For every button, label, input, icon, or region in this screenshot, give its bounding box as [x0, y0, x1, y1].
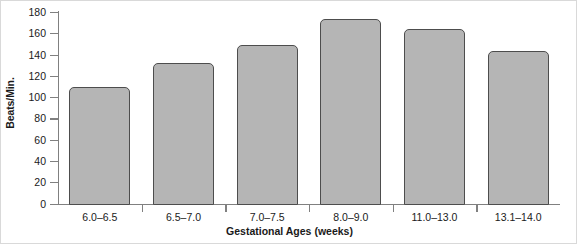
bar [404, 29, 465, 205]
bar [488, 51, 549, 204]
x-axis-tick [225, 205, 226, 212]
y-axis-tick [50, 97, 58, 98]
y-axis-tick [50, 33, 58, 34]
bar [237, 45, 298, 205]
y-axis-tick-label: 120 [1, 70, 46, 82]
y-axis-tick [50, 140, 58, 141]
y-axis-tick [50, 161, 58, 162]
y-axis-tick [50, 55, 58, 56]
x-axis-title: Gestational Ages (weeks) [1, 225, 577, 237]
x-axis-tick [142, 205, 143, 212]
y-axis-tick-label: 140 [1, 49, 46, 61]
x-axis-tick [309, 205, 310, 212]
y-axis-tick [50, 76, 58, 77]
bar [153, 63, 214, 205]
x-axis-category-label: 7.0–7.5 [250, 211, 285, 223]
y-axis-tick-label: 60 [1, 134, 46, 146]
bar [320, 19, 381, 204]
y-axis-tick [50, 12, 58, 13]
x-axis-category-label: 6.0–6.5 [82, 211, 117, 223]
x-axis-category-label: 8.0–9.0 [333, 211, 368, 223]
x-axis-category-label: 6.5–7.0 [166, 211, 201, 223]
y-axis-tick [50, 118, 58, 119]
x-axis-tick [393, 205, 394, 212]
y-axis-tick [50, 204, 58, 205]
y-axis-tick-label: 180 [1, 6, 46, 18]
x-axis-category-label: 13.1–14.0 [495, 211, 542, 223]
y-axis-line [58, 11, 59, 205]
y-axis-tick-label: 80 [1, 112, 46, 124]
y-axis-tick-label: 0 [1, 198, 46, 210]
y-axis-tick-label: 40 [1, 155, 46, 167]
bar [69, 87, 130, 205]
bar-chart-figure: Beats/Min. 020406080100120140160180 6.0–… [0, 0, 577, 244]
y-axis-tick-label: 100 [1, 91, 46, 103]
y-axis-tick-label: 160 [1, 27, 46, 39]
y-axis-tick-label: 20 [1, 176, 46, 188]
y-axis-tick [50, 182, 58, 183]
x-axis-tick [476, 205, 477, 212]
x-axis-category-label: 11.0–13.0 [412, 211, 458, 223]
